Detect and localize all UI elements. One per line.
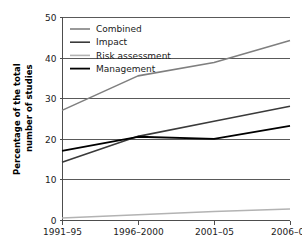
y-tick-label-20: 20 bbox=[45, 135, 57, 145]
y-axis-title: Percentage of the total number of studie… bbox=[12, 63, 34, 175]
x-tick-label-1: 1996–2000 bbox=[113, 227, 164, 237]
legend-label-management: Management bbox=[96, 64, 156, 74]
legend-label-risk-assessment: Risk assessment bbox=[96, 51, 171, 61]
x-tick-label-3: 2006–09 bbox=[271, 227, 302, 237]
x-axis: 1991–951996–20002001–052006–09 bbox=[43, 221, 302, 237]
x-tick-label-2: 2001–05 bbox=[195, 227, 234, 237]
series-line-impact bbox=[62, 106, 290, 162]
y-axis-title-line-2: number of studies bbox=[24, 65, 34, 152]
legend-label-combined: Combined bbox=[96, 24, 142, 34]
y-tick-label-30: 30 bbox=[45, 94, 57, 104]
y-tick-label-0: 0 bbox=[51, 216, 57, 226]
chart-container: 01020304050 1991–951996–20002001–052006–… bbox=[0, 0, 302, 251]
y-axis-title-line-1: Percentage of the total bbox=[12, 63, 22, 175]
y-axis: 01020304050 bbox=[45, 13, 62, 226]
chart-legend: CombinedImpactRisk assessmentManagement bbox=[70, 24, 171, 74]
y-tick-label-40: 40 bbox=[45, 54, 57, 64]
x-tick-label-0: 1991–95 bbox=[43, 227, 82, 237]
series-line-risk-assessment bbox=[62, 209, 290, 218]
y-tick-label-50: 50 bbox=[45, 13, 57, 23]
line-chart: 01020304050 1991–951996–20002001–052006–… bbox=[0, 0, 302, 251]
y-tick-label-10: 10 bbox=[45, 175, 57, 185]
legend-label-impact: Impact bbox=[96, 37, 128, 47]
